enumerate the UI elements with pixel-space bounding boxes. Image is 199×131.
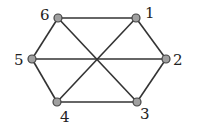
- node-label-3: 3: [140, 105, 150, 123]
- labels: 123456: [14, 4, 183, 126]
- node-label-5: 5: [14, 51, 24, 69]
- node-6: [54, 14, 62, 22]
- node-label-6: 6: [40, 6, 50, 24]
- node-5: [28, 55, 36, 63]
- node-4: [53, 98, 61, 106]
- edge-1-2: [136, 18, 166, 59]
- node-2: [162, 55, 170, 63]
- node-label-4: 4: [60, 108, 70, 126]
- edge-2-3: [137, 59, 166, 102]
- edge-4-5: [32, 59, 57, 102]
- graph-diagram: 123456: [0, 0, 199, 131]
- edge-5-6: [32, 18, 58, 59]
- node-label-1: 1: [145, 4, 155, 22]
- edges: [32, 18, 166, 102]
- node-label-2: 2: [173, 51, 183, 69]
- node-1: [132, 14, 140, 22]
- nodes: [28, 14, 170, 106]
